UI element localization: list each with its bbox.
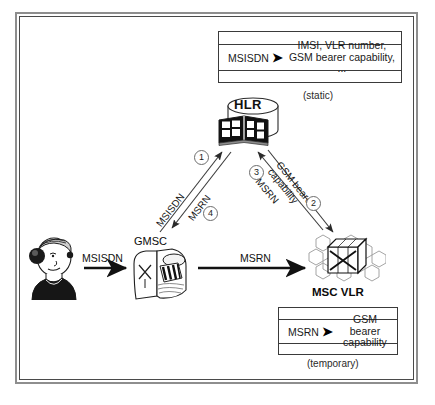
figure-canvas: MSISDN ➤ IMSI, VLR number, GSM bearer ca… [0, 0, 435, 405]
vlr-record-table: MSRN ➤ GSM bearer capability [278, 307, 398, 355]
hlr-record-value-line1: IMSI, VLR number, [298, 39, 387, 51]
vlr-record-caption: (temporary) [307, 358, 359, 369]
vlr-record-value-line1: GSM bearer [350, 313, 380, 337]
hlr-record-caption: (static) [303, 90, 333, 101]
vlr-record-value: GSM bearer capability [337, 314, 397, 349]
hlr-record-value-line2: GSM bearer capability, ... [289, 51, 395, 75]
person-on-phone-icon [26, 234, 82, 300]
hlr-label: HLR [234, 97, 262, 112]
step-badge-1: 1 [194, 150, 209, 165]
vlr-record-value-line2: capability [343, 336, 387, 348]
step-badge-4: 4 [203, 206, 218, 221]
hlr-record-value: IMSI, VLR number, GSM bearer capability,… [287, 40, 401, 75]
flow-label-gmsc-to-msc: MSRN [240, 252, 271, 264]
flow-label-caller-to-gmsc: MSISDN [82, 252, 123, 264]
vlr-record-maps-to-icon: ➤ [319, 325, 337, 338]
hlr-record-key: MSISDN [219, 52, 269, 64]
msc-vlr-label: MSC VLR [312, 286, 364, 298]
hlr-record-maps-to-icon: ➤ [269, 51, 287, 64]
hlr-record-table: MSISDN ➤ IMSI, VLR number, GSM bearer ca… [218, 31, 402, 83]
step-badge-3: 3 [249, 165, 264, 180]
vlr-record-row-main: MSRN ➤ GSM bearer capability [279, 320, 397, 344]
step-badge-2: 2 [306, 196, 321, 211]
gmsc-icon [130, 246, 192, 304]
hlr-record-row-main: MSISDN ➤ IMSI, VLR number, GSM bearer ca… [219, 45, 401, 71]
msc-vlr-icon [306, 233, 386, 293]
vlr-record-key: MSRN [279, 326, 319, 338]
gmsc-label: GMSC [134, 235, 167, 247]
